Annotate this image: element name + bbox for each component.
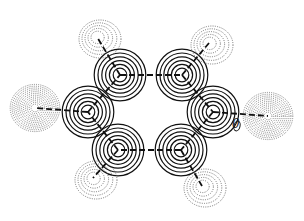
bond-C3-X1 (35, 108, 88, 112)
bond-C3-C1 (88, 75, 120, 112)
atom-contour-X1 (12, 86, 58, 130)
atom-contour-H2 (194, 29, 229, 61)
atom-contour-H3 (78, 164, 113, 196)
contour-map (0, 0, 304, 221)
atom-contour-H1 (82, 23, 117, 55)
bond-C4-X2 (213, 112, 268, 116)
atom-contour-H2 (203, 37, 216, 49)
atom-contour-H4 (187, 172, 222, 204)
zero-contour-label: 0 (232, 117, 240, 131)
bond-C4-C6 (181, 112, 213, 150)
atom-contour-H1 (91, 31, 104, 43)
atom-contour-H4 (196, 180, 209, 192)
